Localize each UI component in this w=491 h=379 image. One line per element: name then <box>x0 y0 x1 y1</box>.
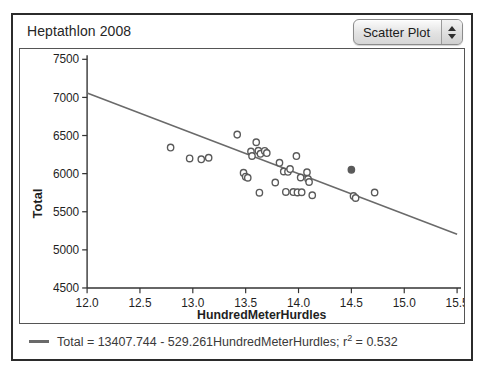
y-tick-label: 5000 <box>53 243 80 257</box>
data-point[interactable] <box>352 195 358 202</box>
data-point[interactable] <box>287 166 293 173</box>
chart-window: Heptathlon 2008 Scatter Plot 45005000550… <box>11 13 473 361</box>
y-axis-label: Total <box>31 189 45 219</box>
data-point[interactable] <box>309 192 315 199</box>
data-point[interactable] <box>299 189 305 196</box>
page-title: Heptathlon 2008 <box>27 23 131 39</box>
data-point[interactable] <box>297 174 303 181</box>
y-tick-label: 6000 <box>53 167 80 181</box>
data-point[interactable] <box>304 169 310 176</box>
data-point[interactable] <box>253 139 259 146</box>
fit-line <box>87 93 457 234</box>
data-point[interactable] <box>167 144 173 151</box>
legend-equation: Total = 13407.744 - 529.261HundredMeterH… <box>57 333 398 349</box>
x-tick-label: 14.5 <box>340 295 363 309</box>
triangle-up-icon[interactable] <box>448 26 456 31</box>
chart-header: Heptathlon 2008 Scatter Plot <box>13 15 471 50</box>
triangle-down-icon[interactable] <box>448 34 456 39</box>
regression-line <box>87 93 457 234</box>
plot-type-select[interactable]: Scatter Plot <box>353 19 463 45</box>
legend-equation-prefix: Total = 13407.744 - 529.261HundredMeterH… <box>57 335 347 349</box>
scatter-plot-svg: 4500500055006000650070007500 12.012.513.… <box>20 49 464 323</box>
plot-type-stepper[interactable] <box>441 20 462 44</box>
data-point[interactable] <box>264 150 270 157</box>
data-point[interactable] <box>272 179 278 186</box>
data-point[interactable] <box>249 153 255 160</box>
data-point[interactable] <box>186 155 192 162</box>
y-axis: 4500500055006000650070007500 <box>53 52 87 295</box>
data-point[interactable] <box>245 174 251 181</box>
data-points <box>167 131 377 201</box>
y-tick-label: 7000 <box>53 90 80 104</box>
y-tick-label: 6500 <box>53 128 80 142</box>
x-axis: 12.012.513.013.514.014.515.015.5 <box>76 288 464 310</box>
plot-area: 4500500055006000650070007500 12.012.513.… <box>19 48 465 324</box>
plot-type-value: Scatter Plot <box>354 25 441 40</box>
legend-line-swatch <box>29 340 49 343</box>
data-point[interactable] <box>198 156 204 163</box>
x-tick-label: 12.0 <box>76 295 99 309</box>
data-point[interactable] <box>256 189 262 196</box>
x-tick-label: 15.5 <box>446 295 464 309</box>
x-axis-label: HundredMeterHurdles <box>197 308 326 322</box>
x-tick-label: 12.5 <box>128 295 151 309</box>
data-point[interactable] <box>234 131 240 138</box>
data-point[interactable] <box>306 179 312 186</box>
y-tick-label: 5500 <box>53 205 80 219</box>
legend: Total = 13407.744 - 529.261HundredMeterH… <box>19 328 465 354</box>
data-point[interactable] <box>206 154 212 161</box>
data-point[interactable] <box>371 189 377 196</box>
y-tick-label: 7500 <box>53 52 80 66</box>
data-point[interactable] <box>276 160 282 167</box>
y-tick-label: 4500 <box>53 281 80 295</box>
legend-equation-suffix: = 0.532 <box>352 335 398 349</box>
data-point[interactable] <box>283 189 289 196</box>
data-point[interactable] <box>348 166 354 173</box>
x-tick-label: 15.0 <box>393 295 416 309</box>
data-point[interactable] <box>293 153 299 160</box>
